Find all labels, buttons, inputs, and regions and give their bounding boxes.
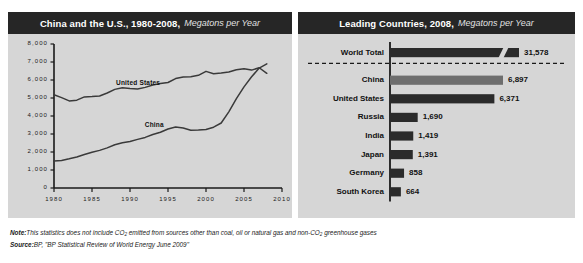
y-tick-label: 7,000 bbox=[8, 58, 48, 64]
bar-south-korea bbox=[390, 187, 401, 196]
series-label-united-states: United States bbox=[116, 79, 160, 86]
y-tick-label: 4,000 bbox=[8, 112, 48, 118]
bar-chart-plot-area: World Total31,578China6,897United States… bbox=[298, 34, 575, 218]
bar-value-label-germany: 858 bbox=[409, 168, 422, 177]
bar-category-label-india: India bbox=[298, 131, 384, 140]
y-tick-label: 0 bbox=[8, 184, 48, 190]
footnote-note-text-b: emitted from sources other than coal, oi… bbox=[127, 229, 320, 236]
bar-india bbox=[390, 131, 413, 140]
bar-united-states bbox=[390, 94, 494, 103]
x-tick-label: 2000 bbox=[190, 196, 222, 202]
bar-value-label-world-total: 31,578 bbox=[524, 48, 548, 57]
y-tick-label: 8,000 bbox=[8, 40, 48, 46]
line-chart-title: China and the U.S., 1980-2008, bbox=[40, 18, 180, 29]
bar-value-label-united-states: 6,371 bbox=[499, 94, 519, 103]
bar-value-label-india: 1,419 bbox=[418, 131, 438, 140]
y-tick-label: 6,000 bbox=[8, 76, 48, 82]
bar-category-label-world-total: World Total bbox=[298, 48, 384, 57]
bar-category-label-china: China bbox=[298, 75, 384, 84]
bar-category-label-germany: Germany bbox=[298, 168, 384, 177]
infographic-root: China and the U.S., 1980-2008, Megatons … bbox=[0, 0, 583, 263]
bar-japan bbox=[390, 150, 413, 159]
bar-category-label-russia: Russia bbox=[298, 112, 384, 121]
y-tick-label: 5,000 bbox=[8, 94, 48, 100]
x-tick-label: 1980 bbox=[38, 196, 70, 202]
bar-germany bbox=[390, 169, 404, 178]
footnote: Note:This statistics does not include CO… bbox=[10, 228, 570, 249]
bar-category-label-united-states: United States bbox=[298, 94, 384, 103]
bar-russia bbox=[390, 113, 418, 122]
bar-china bbox=[390, 76, 503, 85]
bar-chart-panel: Leading Countries, 2008, Megatons per Ye… bbox=[298, 12, 575, 218]
series-line-united-states bbox=[54, 68, 267, 101]
footnote-note-label: Note: bbox=[10, 229, 26, 236]
footnote-note-text-a: This statistics does not include CO bbox=[26, 229, 124, 236]
x-tick-label: 2005 bbox=[228, 196, 260, 202]
bar-chart-subtitle: Megatons per Year bbox=[458, 18, 534, 28]
line-chart-header: China and the U.S., 1980-2008, Megatons … bbox=[8, 12, 292, 34]
x-tick-label: 1995 bbox=[152, 196, 184, 202]
series-line-china bbox=[54, 64, 267, 161]
bar-category-label-south-korea: South Korea bbox=[298, 187, 384, 196]
line-chart-panel: China and the U.S., 1980-2008, Megatons … bbox=[8, 12, 292, 218]
x-tick-label: 1985 bbox=[76, 196, 108, 202]
y-tick-label: 1,000 bbox=[8, 166, 48, 172]
bar-chart-title: Leading Countries, 2008, bbox=[339, 18, 454, 29]
x-tick-label: 1990 bbox=[114, 196, 146, 202]
bar-value-label-japan: 1,391 bbox=[418, 150, 438, 159]
bar-value-label-russia: 1,690 bbox=[423, 112, 443, 121]
series-label-china: China bbox=[145, 121, 164, 128]
x-tick-label: 2010 bbox=[266, 196, 292, 202]
y-tick-label: 2,000 bbox=[8, 148, 48, 154]
footnote-source-line: Source:BP, "BP Statistical Review of Wor… bbox=[10, 240, 570, 250]
line-chart-subtitle: Megatons per Year bbox=[184, 18, 260, 28]
footnote-note-text-c: greenhouse gases bbox=[322, 229, 376, 236]
bar-value-label-china: 6,897 bbox=[508, 75, 528, 84]
footnote-note-line: Note:This statistics does not include CO… bbox=[10, 228, 570, 240]
bar-value-label-south-korea: 664 bbox=[406, 187, 419, 196]
line-chart-plot-area: 01,0002,0003,0004,0005,0006,0007,0008,00… bbox=[8, 34, 292, 218]
footnote-source-label: Source: bbox=[10, 241, 34, 248]
bar-category-label-japan: Japan bbox=[298, 150, 384, 159]
footnote-source-text: BP, "BP Statistical Review of World Ener… bbox=[34, 241, 189, 248]
y-tick-label: 3,000 bbox=[8, 130, 48, 136]
bar-chart-header: Leading Countries, 2008, Megatons per Ye… bbox=[298, 12, 575, 34]
